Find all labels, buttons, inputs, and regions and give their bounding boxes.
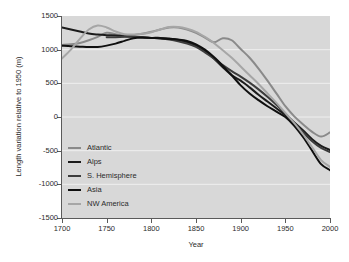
y-tick-label: -1500 [39, 214, 58, 222]
legend-item-label: S. Hemisphere [87, 172, 137, 180]
x-tick-label: 1850 [176, 225, 216, 233]
glacier-length-variation-chart: 150010005000-500-1000-150017001750180018… [0, 0, 349, 262]
x-tick [151, 218, 152, 223]
x-tick-label: 1950 [265, 225, 305, 233]
x-tick-label: 1750 [87, 225, 127, 233]
x-tick [107, 218, 108, 223]
y-tick-label: 1500 [41, 12, 58, 20]
x-tick-label: 1700 [42, 225, 82, 233]
legend-item-asia[interactable]: Asia [68, 183, 137, 197]
legend-swatch-icon [68, 161, 81, 163]
chart-legend: AtlanticAlpsS. HemisphereAsiaNW America [68, 141, 137, 211]
x-tick [62, 218, 63, 223]
x-tick-label: 1800 [131, 225, 171, 233]
x-tick-label: 1900 [221, 225, 261, 233]
y-tick-label: -500 [43, 147, 58, 155]
legend-item-label: Alps [87, 158, 102, 166]
y-tick-label: 1000 [41, 46, 58, 54]
y-tick-label: 500 [45, 79, 58, 87]
x-tick [241, 218, 242, 223]
legend-swatch-icon [68, 189, 81, 191]
x-axis-title: Year [62, 240, 330, 249]
series-line-s-hemisphere [107, 37, 330, 152]
legend-item-nw-america[interactable]: NW America [68, 197, 137, 211]
legend-item-label: Atlantic [87, 144, 112, 152]
x-tick [285, 218, 286, 223]
legend-swatch-icon [68, 147, 81, 149]
x-tick [196, 218, 197, 223]
x-tick [330, 218, 331, 223]
x-tick-label: 2000 [310, 225, 349, 233]
legend-item-alps[interactable]: Alps [68, 155, 137, 169]
y-tick-label: -1000 [39, 180, 58, 188]
legend-item-label: Asia [87, 186, 102, 194]
y-axis-title: Length variation relative to 1950 (m) [14, 7, 23, 227]
legend-swatch-icon [68, 203, 81, 205]
legend-swatch-icon [68, 175, 81, 177]
y-tick-label: 0 [54, 113, 58, 121]
legend-item-s-hemisphere[interactable]: S. Hemisphere [68, 169, 137, 183]
legend-item-label: NW America [87, 200, 129, 208]
legend-item-atlantic[interactable]: Atlantic [68, 141, 137, 155]
